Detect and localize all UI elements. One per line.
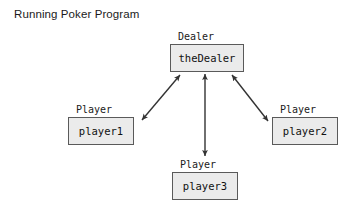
connection-dealer-player2 (232, 75, 268, 121)
node-player1-type-label: Player (76, 104, 112, 115)
node-player2-type-label: Player (280, 104, 316, 115)
node-dealer-box[interactable]: theDealer (170, 44, 244, 72)
node-player2-instance-label: player2 (283, 125, 327, 137)
node-player1-instance-label: player1 (79, 125, 123, 137)
node-player3-instance-label: player3 (183, 180, 227, 192)
node-player3-box[interactable]: player3 (172, 172, 238, 200)
diagram-canvas: Running Poker Program Dealer theDealer P… (0, 0, 352, 215)
node-dealer-instance-label: theDealer (179, 52, 236, 64)
connection-dealer-player1 (142, 75, 180, 120)
node-dealer-type-label: Dealer (178, 31, 214, 42)
node-player1-box[interactable]: player1 (68, 117, 134, 145)
node-player2-box[interactable]: player2 (272, 117, 338, 145)
node-player3-type-label: Player (180, 159, 216, 170)
